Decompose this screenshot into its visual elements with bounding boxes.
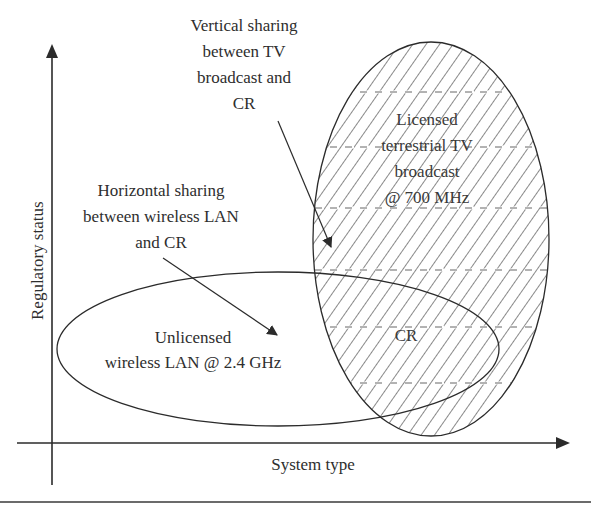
- svg-text:broadcast: broadcast: [394, 162, 459, 181]
- unlicensed-wlan-label: Unlicensed wireless LAN @ 2.4 GHz: [105, 328, 282, 372]
- svg-text:CR: CR: [233, 94, 256, 113]
- svg-text:wireless LAN @ 2.4 GHz: wireless LAN @ 2.4 GHz: [105, 353, 282, 372]
- horizontal-sharing-annotation: Horizontal sharing between wireless LAN …: [83, 181, 277, 335]
- svg-text:terrestrial TV: terrestrial TV: [381, 136, 473, 155]
- cr-overlap-label: CR: [395, 326, 418, 345]
- svg-text:broadcast and: broadcast and: [197, 68, 291, 87]
- svg-text:between TV: between TV: [202, 42, 286, 61]
- horizontal-sharing-arrow: [163, 258, 277, 335]
- x-axis-arrow-icon: [556, 437, 570, 449]
- svg-text:between wireless LAN: between wireless LAN: [83, 207, 239, 226]
- y-axis-arrow-icon: [46, 44, 58, 58]
- svg-text:Horizontal sharing: Horizontal sharing: [98, 181, 225, 200]
- x-axis-label: System type: [271, 455, 355, 474]
- sharing-diagram: Regulatory status System type Licensed t…: [0, 0, 591, 506]
- svg-text:Unlicensed: Unlicensed: [155, 328, 232, 347]
- svg-text:Licensed: Licensed: [396, 110, 458, 129]
- licensed-tv-region: [300, 42, 560, 436]
- svg-text:and CR: and CR: [135, 233, 187, 252]
- svg-text:Vertical sharing: Vertical sharing: [190, 16, 298, 35]
- svg-text:@ 700 MHz: @ 700 MHz: [385, 188, 470, 207]
- y-axis-label: Regulatory status: [28, 201, 47, 320]
